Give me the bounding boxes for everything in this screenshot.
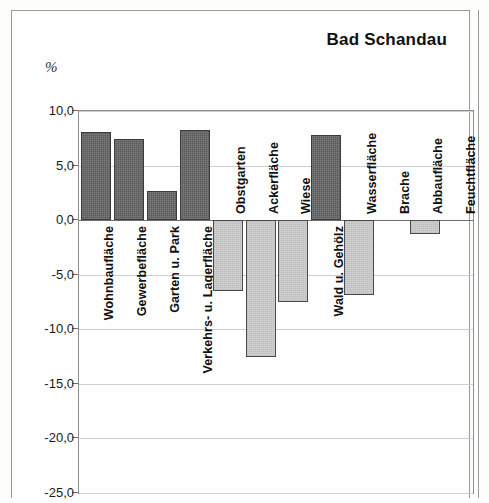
category-label: Gewerbefläche <box>135 226 149 316</box>
gridline <box>79 111 473 112</box>
bar <box>278 220 308 302</box>
y-axis-tick-label: 10,0 <box>49 103 74 118</box>
category-label: Garten u. Park <box>168 226 182 313</box>
y-axis-unit-label: % <box>45 59 58 76</box>
gridline <box>79 329 473 330</box>
category-label: Feuchtfläche <box>464 136 478 214</box>
y-axis-tick-label: -20,0 <box>44 430 74 445</box>
bar <box>213 220 243 291</box>
y-axis-tick-label: -10,0 <box>44 321 74 336</box>
category-label: Ackerfläche <box>267 142 281 214</box>
y-axis-tick-label: -5,0 <box>52 266 74 281</box>
category-label: Wohnbaufläche <box>102 226 116 320</box>
gridline <box>79 438 473 439</box>
adjacent-panel-sliver <box>478 10 489 498</box>
category-label: Wasserfläche <box>365 133 379 214</box>
bar <box>311 135 341 220</box>
category-label: Abbaufläche <box>431 138 445 214</box>
y-axis-tick-label: -15,0 <box>44 375 74 390</box>
bar <box>180 130 210 221</box>
y-axis-tick-label: 0,0 <box>56 212 74 227</box>
bar <box>344 220 374 295</box>
bar <box>147 191 177 220</box>
gridline <box>79 384 473 385</box>
chart-title: Bad Schandau <box>327 30 447 50</box>
bar <box>246 220 276 356</box>
gridline <box>79 493 473 494</box>
category-label: Brache <box>398 171 412 214</box>
plot-area: WohnbauflächeGewerbeflächeGarten u. Park… <box>78 110 474 494</box>
bar <box>81 132 111 220</box>
y-axis: 10,05,00,0-5,0-10,0-15,0-20,0-25,0 <box>12 103 74 503</box>
y-axis-tick-label: -25,0 <box>44 485 74 500</box>
bar <box>114 139 144 220</box>
chart-card: Bad Schandau % 10,05,00,0-5,0-10,0-15,0-… <box>11 10 470 498</box>
category-label: Obstgarten <box>234 146 248 214</box>
y-axis-tick-label: 5,0 <box>56 157 74 172</box>
bar <box>410 220 440 234</box>
